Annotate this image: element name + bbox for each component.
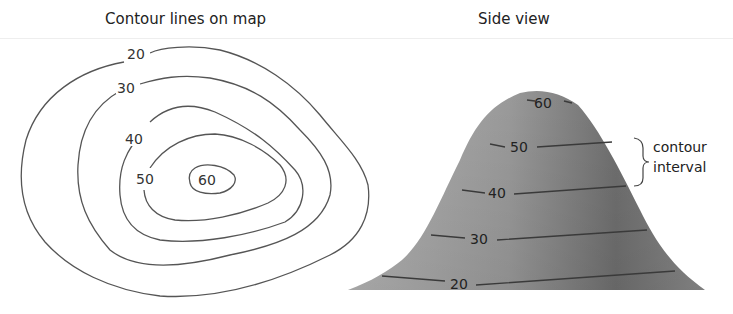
- map-contours: [21, 47, 368, 297]
- contour-interval-brace: [634, 138, 649, 186]
- contour-interval-label: contour interval: [653, 137, 707, 177]
- side-label-20: 20: [450, 276, 468, 292]
- map-label-60: 60: [198, 172, 216, 188]
- side-label-40: 40: [488, 185, 506, 201]
- side-label-60: 60: [534, 95, 552, 111]
- map-label-20: 20: [127, 46, 145, 62]
- contour-20: [21, 47, 368, 297]
- annotation-line1: contour: [653, 137, 707, 157]
- contour-diagram: 20 30 40 50 60 60 50 40 30 20: [0, 0, 733, 314]
- map-label-30: 30: [117, 80, 135, 96]
- map-label-50: 50: [136, 171, 154, 187]
- side-label-30: 30: [470, 231, 488, 247]
- side-label-50: 50: [510, 139, 528, 155]
- hill-side-view: [348, 91, 705, 290]
- contour-30: [78, 76, 331, 265]
- annotation-line2: interval: [653, 157, 707, 177]
- map-label-40: 40: [125, 131, 143, 147]
- map-labels: 20 30 40 50 60: [116, 44, 216, 188]
